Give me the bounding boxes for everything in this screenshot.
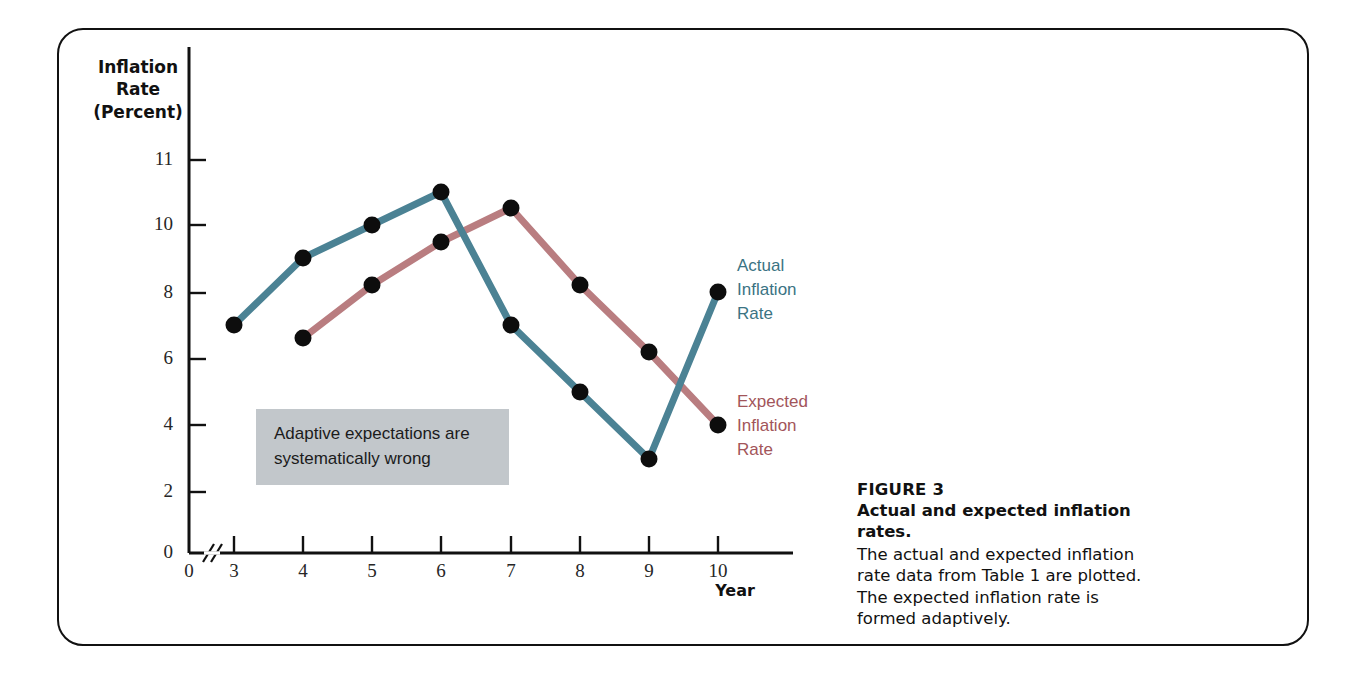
x-tick-label-5: 5 bbox=[357, 560, 387, 582]
y-axis-title: InflationRate(Percent) bbox=[90, 56, 186, 123]
x-tick-label-0: 0 bbox=[174, 560, 204, 582]
figure-caption: FIGURE 3 Actual and expected inflation r… bbox=[857, 480, 1153, 630]
y-tick-label-0: 0 bbox=[145, 541, 173, 563]
x-tick-label-8: 8 bbox=[565, 560, 595, 582]
y-tick-label-10: 10 bbox=[145, 213, 173, 235]
caption-figure-number: FIGURE 3 bbox=[857, 480, 1153, 499]
x-tick-label-10: 10 bbox=[703, 560, 733, 582]
x-tick-label-4: 4 bbox=[288, 560, 318, 582]
y-tick-label-8: 8 bbox=[145, 281, 173, 303]
y-tick-label-4: 4 bbox=[145, 413, 173, 435]
annotation-box: Adaptive expectations aresystematically … bbox=[256, 409, 509, 485]
x-axis-title: Year bbox=[700, 580, 770, 601]
y-tick-label-11: 11 bbox=[145, 148, 173, 170]
y-tick-label-2: 2 bbox=[145, 480, 173, 502]
x-tick-label-9: 9 bbox=[634, 560, 664, 582]
legend-label-actual: ActualInflationRate bbox=[737, 254, 797, 326]
caption-title: Actual and expected inflation rates. bbox=[857, 500, 1153, 543]
annotation-text: Adaptive expectations aresystematically … bbox=[256, 422, 478, 471]
x-tick-label-3: 3 bbox=[219, 560, 249, 582]
caption-body: The actual and expected inflation rate d… bbox=[857, 544, 1153, 630]
legend-label-expected: ExpectedInflationRate bbox=[737, 390, 808, 462]
y-tick-label-6: 6 bbox=[145, 347, 173, 369]
x-tick-label-7: 7 bbox=[496, 560, 526, 582]
x-tick-label-6: 6 bbox=[426, 560, 456, 582]
